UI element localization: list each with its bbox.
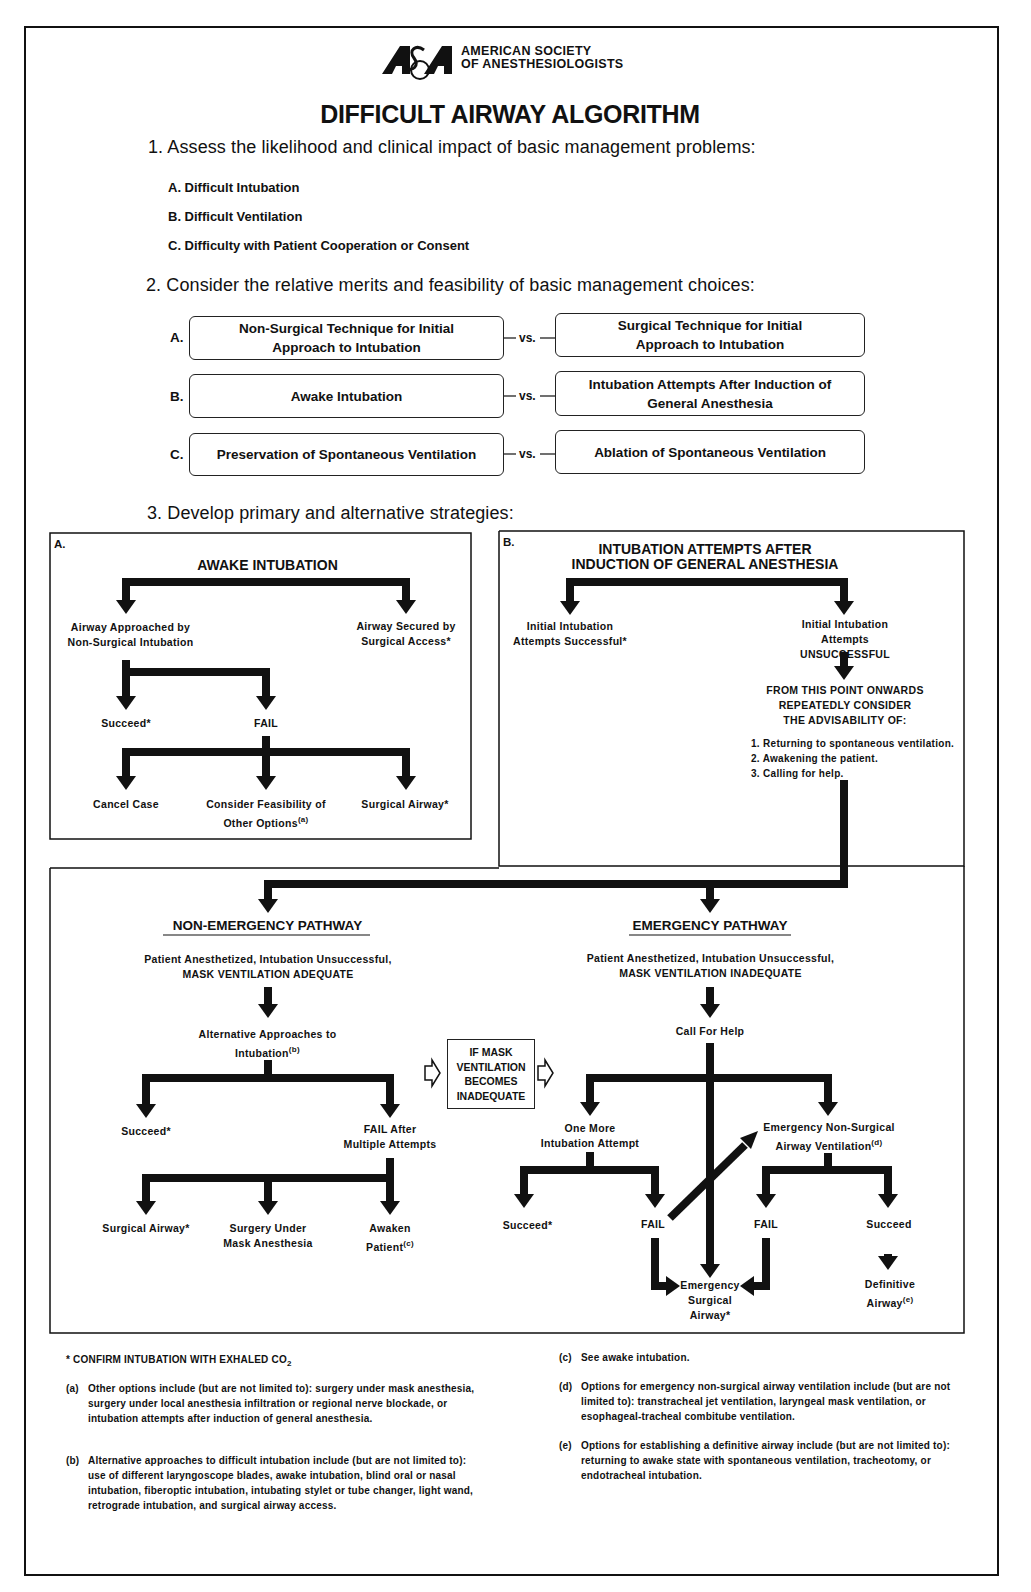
definitive-line2-wrap: Airway(e)	[850, 1292, 930, 1311]
emergency-title: EMERGENCY PATHWAY	[600, 918, 820, 933]
footnote-star: * CONFIRM INTUBATION WITH EXHALED CO2	[66, 1352, 292, 1371]
node-a-succeed: Succeed*	[86, 716, 166, 731]
node-one-more-2: Intubation Attempt	[520, 1136, 660, 1151]
emergency-condition-2: MASK VENTILATION INADEQUATE	[548, 966, 873, 981]
alt-approaches-text: Alternative Approaches to Intubation	[199, 1028, 337, 1059]
footnote-e: (e) Options for establishing a definitiv…	[559, 1438, 959, 1483]
footnote-ref-b: (b)	[289, 1045, 300, 1054]
asa-logo	[380, 42, 455, 82]
node-ne-succeed: Succeed*	[106, 1124, 186, 1139]
asa-logo-icon	[380, 42, 455, 82]
node-cancel-case: Cancel Case	[76, 797, 176, 812]
node-em-fail-right: FAIL	[746, 1217, 786, 1232]
footnote-b-text: Alternative approaches to difficult intu…	[88, 1453, 486, 1513]
em-surg-line3: Airway*	[672, 1308, 748, 1323]
footnote-ref-a: (a)	[298, 815, 309, 824]
node-definitive-airway: Definitive Airway(e)	[850, 1277, 930, 1311]
node-ne-surgical-airway: Surgical Airway*	[91, 1221, 201, 1236]
footnote-star-text: * CONFIRM INTUBATION WITH EXHALED CO	[66, 1354, 287, 1365]
non-emergency-condition-2: MASK VENTILATION ADEQUATE	[108, 967, 428, 982]
node-nonsurgical-approach: Airway Approached by Non-Surgical Intuba…	[58, 620, 203, 650]
node-a-fail: FAIL	[236, 716, 296, 731]
step2-row-a-key: A.	[170, 330, 184, 345]
page-title: DIFFICULT AIRWAY ALGORITHM	[250, 100, 770, 129]
panel-a-key: A.	[54, 538, 66, 550]
step3-heading: 3. Develop primary and alternative strat…	[147, 503, 514, 524]
if-box-line4: INADEQUATE	[448, 1089, 534, 1104]
choice-nonsurgical-technique: Non-Surgical Technique for Initial Appro…	[189, 316, 504, 360]
vs-label-c: vs.	[519, 447, 536, 461]
footnote-d-text: Options for emergency non-surgical airwa…	[581, 1379, 959, 1424]
node-a-surgical-airway: Surgical Airway*	[350, 797, 460, 812]
node-initial-unsuccessful: Initial Intubation Attempts UNSUCCESSFUL	[778, 617, 912, 662]
choice-ablation-spontaneous: Ablation of Spontaneous Ventilation	[555, 430, 865, 474]
vs-label-b: vs.	[519, 389, 536, 403]
node-nonsurg-vent-1: Emergency Non-Surgical	[758, 1120, 900, 1135]
if-mask-inadequate-box: IF MASK VENTILATION BECOMES INADEQUATE	[447, 1039, 535, 1109]
node-one-more-1: One More	[530, 1121, 650, 1136]
footnote-ref-d: (d)	[871, 1138, 882, 1147]
step2-row-b-key: B.	[170, 389, 184, 404]
node-surgery-mask-anesthesia: Surgery Under Mask Anesthesia	[218, 1221, 318, 1251]
emergency-condition-1: Patient Anesthetized, Intubation Unsucce…	[548, 951, 873, 966]
footnote-c: (c) See awake intubation.	[559, 1350, 979, 1365]
panel-b-title-line1: INTUBATION ATTEMPTS AFTER	[540, 541, 870, 557]
step2-row-c-key: C.	[170, 447, 184, 462]
footnote-c-key: (c)	[559, 1350, 572, 1365]
node-emergency-surgical-airway: Emergency Surgical Airway*	[672, 1278, 748, 1323]
footnote-b-key: (b)	[66, 1453, 79, 1468]
consider-line1: FROM THIS POINT ONWARDS	[730, 683, 960, 698]
org-name-line2: OF ANESTHESIOLOGISTS	[461, 58, 624, 71]
em-surg-line1: Emergency	[672, 1278, 748, 1293]
node-awaken-patient: Awaken Patient(c)	[355, 1221, 425, 1255]
node-consider-options: Consider Feasibility of Other Options(a)	[196, 797, 336, 831]
footnote-c-text: See awake intubation.	[581, 1350, 979, 1365]
footnote-ref-e: (e)	[903, 1295, 914, 1304]
node-initial-successful: Initial Intubation Attempts Successful*	[505, 619, 635, 649]
vs-label-a: vs.	[519, 331, 536, 345]
footnote-d-key: (d)	[559, 1379, 572, 1394]
footnote-a-text: Other options include (but are not limit…	[88, 1381, 476, 1426]
panel-a-title: AWAKE INTUBATION	[150, 557, 385, 573]
node-nonsurg-vent-2: Airway Ventilation(d)	[758, 1135, 900, 1154]
choice-surgical-technique: Surgical Technique for Initial Approach …	[555, 313, 865, 357]
panel-b-key: B.	[503, 536, 515, 548]
if-box-line3: BECOMES	[448, 1074, 534, 1089]
footnote-a: (a) Other options include (but are not l…	[66, 1381, 476, 1426]
nonsurg-vent-text: Airway Ventilation	[776, 1140, 872, 1152]
consider-option-2: 2. Awakening the patient.	[751, 751, 878, 766]
if-box-line2: VENTILATION	[448, 1060, 534, 1075]
step2-heading: 2. Consider the relative merits and feas…	[146, 275, 755, 296]
footnote-e-key: (e)	[559, 1438, 572, 1453]
node-em-succeed-right: Succeed	[855, 1217, 923, 1232]
step1-heading: 1. Assess the likelihood and clinical im…	[148, 137, 756, 158]
footnote-e-text: Options for establishing a definitive ai…	[581, 1438, 959, 1483]
node-em-succeed-left: Succeed*	[490, 1218, 565, 1233]
consider-line2: REPEATEDLY CONSIDER	[730, 698, 960, 713]
choice-awake-intubation: Awake Intubation	[189, 374, 504, 418]
consider-line3: THE ADVISABILITY OF:	[730, 713, 960, 728]
definitive-line1: Definitive	[850, 1277, 930, 1292]
node-fail-multiple-2: Multiple Attempts	[330, 1137, 450, 1152]
node-fail-multiple-1: FAIL After	[330, 1122, 450, 1137]
panel-b-title-line2: INDUCTION OF GENERAL ANESTHESIA	[540, 556, 870, 572]
footnote-ref-c: (c)	[403, 1239, 414, 1248]
choice-preservation-spontaneous: Preservation of Spontaneous Ventilation	[189, 433, 504, 476]
node-surgical-access: Airway Secured by Surgical Access*	[345, 619, 467, 649]
step1-item-b: B. Difficult Ventilation	[168, 209, 302, 224]
choice-induction-general-anesthesia: Intubation Attempts After Induction of G…	[555, 371, 865, 416]
node-em-fail-left: FAIL	[633, 1217, 673, 1232]
node-alternative-approaches: Alternative Approaches to Intubation(b)	[195, 1027, 340, 1061]
em-surg-line2: Surgical	[672, 1293, 748, 1308]
if-box-line1: IF MASK	[448, 1045, 534, 1060]
footnote-d: (d) Options for emergency non-surgical a…	[559, 1379, 959, 1424]
consider-option-1: 1. Returning to spontaneous ventilation.	[751, 736, 954, 751]
step1-item-c: C. Difficulty with Patient Cooperation o…	[168, 238, 469, 253]
footnote-star-sub: 2	[287, 1359, 292, 1368]
definitive-line2: Airway	[867, 1297, 903, 1309]
non-emergency-title: NON-EMERGENCY PATHWAY	[150, 918, 385, 933]
footnote-a-key: (a)	[66, 1381, 79, 1396]
footnote-b: (b) Alternative approaches to difficult …	[66, 1453, 486, 1513]
step1-item-a: A. Difficult Intubation	[168, 180, 299, 195]
non-emergency-condition-1: Patient Anesthetized, Intubation Unsucce…	[108, 952, 428, 967]
